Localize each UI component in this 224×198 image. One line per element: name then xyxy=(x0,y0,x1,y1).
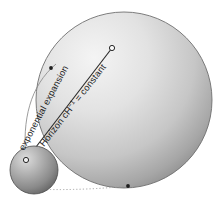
marker-horizon-endpoint xyxy=(109,45,114,50)
diagram-canvas: exponential expansion Horizon cH−1 = con… xyxy=(0,0,224,198)
expanded-universe-sphere xyxy=(36,12,212,188)
inflation-diagram-figure: exponential expansion Horizon cH−1 = con… xyxy=(0,0,224,198)
marker-sphere-edge-point xyxy=(49,66,53,70)
marker-sphere-bottom-point xyxy=(126,184,130,188)
initial-universe-sphere xyxy=(10,146,58,194)
marker-origin-point xyxy=(23,157,28,162)
